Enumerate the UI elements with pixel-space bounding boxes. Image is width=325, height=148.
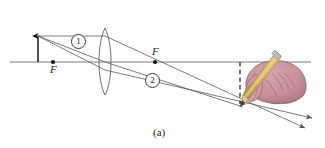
focal-point-right-label: F xyxy=(152,46,159,57)
ray-three-center xyxy=(38,36,243,107)
optics-ray-diagram-figure: F F 1 2 (a) xyxy=(0,0,325,148)
focal-point-right-dot xyxy=(153,60,157,64)
ray-one-label: 1 xyxy=(71,34,86,49)
hand-holding-pencil xyxy=(240,50,306,107)
ray-two-label: 2 xyxy=(145,73,160,88)
focal-point-left-label: F xyxy=(50,64,57,75)
figure-caption: (a) xyxy=(153,127,165,138)
